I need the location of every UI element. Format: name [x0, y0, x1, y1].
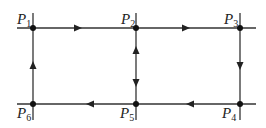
node-p5: [133, 101, 139, 107]
label-p1: P1: [16, 11, 31, 29]
arrow-left-icon: [186, 101, 194, 108]
node-p6: [30, 101, 36, 107]
arrow-right-icon: [74, 25, 82, 32]
label-p6: P6: [16, 105, 31, 123]
arrow-up-icon: [30, 61, 37, 69]
arrow-up-icon: [133, 46, 140, 54]
arrow-right-icon: [182, 25, 190, 32]
label-p4: P4: [221, 105, 236, 123]
label-p2: P2: [120, 11, 135, 29]
arrow-left-icon: [86, 101, 94, 108]
arrow-down-icon: [237, 62, 244, 70]
node-p4: [237, 101, 243, 107]
graph-diagram: P1 P2 P3 P4 P5 P6: [0, 0, 266, 128]
label-p3: P3: [223, 11, 238, 29]
arrow-down-icon: [133, 79, 140, 87]
label-p5: P5: [119, 105, 134, 123]
